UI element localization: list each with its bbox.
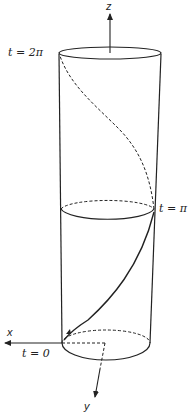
helix-cylinder-diagram: z x y t = 2π t = π t = 0 <box>0 0 191 417</box>
helix-direction-arrow-icon <box>66 329 71 334</box>
helix-hidden-upper <box>60 56 154 209</box>
label-t-0: t = 0 <box>22 347 50 360</box>
middle-ellipse <box>61 200 154 219</box>
cylinder-right-side <box>150 54 161 343</box>
z-axis-label: z <box>105 0 112 12</box>
z-axis: z <box>105 0 112 53</box>
y-axis: y <box>83 343 105 412</box>
x-axis-label: x <box>6 326 13 338</box>
bottom-ellipse <box>62 330 150 360</box>
x-axis: x <box>5 326 105 343</box>
label-t-pi: t = π <box>159 202 188 215</box>
cylinder-left-side <box>59 54 62 343</box>
label-t-2pi: t = 2π <box>8 46 44 59</box>
helix-visible-lower <box>64 212 154 340</box>
y-axis-label: y <box>83 400 91 412</box>
